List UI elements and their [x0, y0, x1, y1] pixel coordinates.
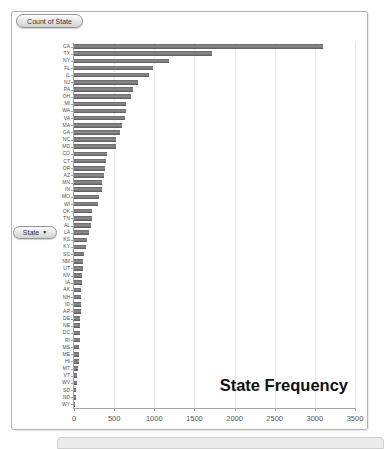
y-axis-tick: [71, 183, 74, 184]
y-axis-tick: [71, 132, 74, 133]
gridline: [355, 43, 356, 408]
y-axis-label: IL: [26, 73, 70, 78]
y-axis-tick: [71, 340, 74, 341]
y-axis-tick: [71, 311, 74, 312]
y-axis-tick: [71, 75, 74, 76]
gridline: [154, 43, 155, 408]
gridline: [235, 43, 236, 408]
chart-bar: [74, 302, 81, 307]
chart-bar: [74, 331, 80, 336]
x-axis-tick: [355, 408, 356, 411]
y-axis-label: GA: [26, 130, 70, 135]
y-axis-label: IA: [26, 280, 70, 285]
y-axis-label: KY: [26, 244, 70, 249]
y-axis-label: NH: [26, 295, 70, 300]
y-axis-tick: [71, 175, 74, 176]
chart-bar: [74, 230, 89, 235]
y-axis-tick: [71, 190, 74, 191]
y-axis-tick: [71, 290, 74, 291]
chart-bar: [74, 266, 83, 271]
state-filter-label: State: [23, 229, 39, 236]
y-axis-tick: [71, 218, 74, 219]
x-axis-label: 500: [108, 414, 121, 423]
gridline: [275, 43, 276, 408]
chart-bar: [74, 309, 81, 314]
chart-bar: [74, 323, 80, 328]
y-axis-tick: [71, 319, 74, 320]
chart-title: State Frequency: [220, 376, 348, 395]
chart-bar: [74, 338, 80, 343]
y-axis-label: HI: [26, 359, 70, 364]
x-axis-tick: [235, 408, 236, 411]
y-axis-label: PA: [26, 87, 70, 92]
y-axis-label: WY: [26, 402, 70, 407]
chart-bar: [74, 202, 98, 207]
chart-bar: [74, 159, 106, 164]
y-axis-tick: [71, 254, 74, 255]
chart-bar: [74, 216, 92, 221]
y-axis-tick: [71, 404, 74, 405]
y-axis-tick: [71, 333, 74, 334]
y-axis-tick: [71, 154, 74, 155]
x-axis-tick: [194, 408, 195, 411]
chart-bar: [74, 166, 105, 171]
y-axis-label: NM: [26, 259, 70, 264]
y-axis-label: DC: [26, 330, 70, 335]
y-axis-label: AK: [26, 287, 70, 292]
gridline: [194, 43, 195, 408]
y-axis-label: OK: [26, 209, 70, 214]
y-axis-tick: [71, 347, 74, 348]
y-axis-label: VT: [26, 373, 70, 378]
y-axis-tick: [71, 361, 74, 362]
y-axis-tick: [71, 118, 74, 119]
y-axis-tick: [71, 247, 74, 248]
y-axis-label: WA: [26, 108, 70, 113]
y-axis-label: NC: [26, 137, 70, 142]
y-axis-label: MD: [26, 144, 70, 149]
y-axis-label: TX: [26, 51, 70, 56]
chart-bar: [74, 345, 79, 350]
y-axis-tick: [71, 147, 74, 148]
x-axis-tick: [315, 408, 316, 411]
y-axis-tick: [71, 204, 74, 205]
y-axis-label: FL: [26, 66, 70, 71]
chart-bar: [74, 144, 116, 149]
y-axis-tick: [71, 354, 74, 355]
x-axis-tick: [114, 408, 115, 411]
count-of-state-field-button[interactable]: Count of State: [16, 14, 83, 28]
y-axis-tick: [71, 140, 74, 141]
chart-bar: [74, 288, 81, 293]
state-filter-button[interactable]: State ▼: [13, 226, 57, 239]
y-axis-label: DE: [26, 316, 70, 321]
x-axis-label: 0: [72, 414, 76, 423]
chart-bar: [74, 109, 126, 114]
y-axis-tick: [71, 111, 74, 112]
y-axis-tick: [71, 97, 74, 98]
y-axis-label: OR: [26, 166, 70, 171]
y-axis-tick: [71, 304, 74, 305]
y-axis-label: WV: [26, 380, 70, 385]
x-axis-tick: [275, 408, 276, 411]
bottom-strip: [57, 437, 384, 449]
y-axis-label: AZ: [26, 173, 70, 178]
chart-bar: [74, 73, 149, 78]
chart-bar: [74, 381, 77, 386]
chart-bar: [74, 259, 83, 264]
chart-bar: [74, 130, 120, 135]
y-axis-label: NV: [26, 273, 70, 278]
y-axis-label: MO: [26, 194, 70, 199]
y-axis-label: MN: [26, 180, 70, 185]
y-axis-tick: [71, 261, 74, 262]
y-axis-tick: [71, 168, 74, 169]
chart-bar: [74, 116, 125, 121]
y-axis-tick: [71, 283, 74, 284]
chart-bar: [74, 137, 116, 142]
y-axis-tick: [71, 54, 74, 55]
x-axis-label: 2000: [226, 414, 243, 423]
y-axis-label: CT: [26, 159, 70, 164]
plot-area: CATXNYFLILNJPAOHMIWAVAMAGANCMDCOCTORAZMN…: [73, 43, 355, 409]
y-axis-label: CA: [26, 44, 70, 49]
chart-bar: [74, 280, 82, 285]
chart-bar: [74, 80, 138, 85]
chevron-down-icon: ▼: [42, 230, 47, 235]
